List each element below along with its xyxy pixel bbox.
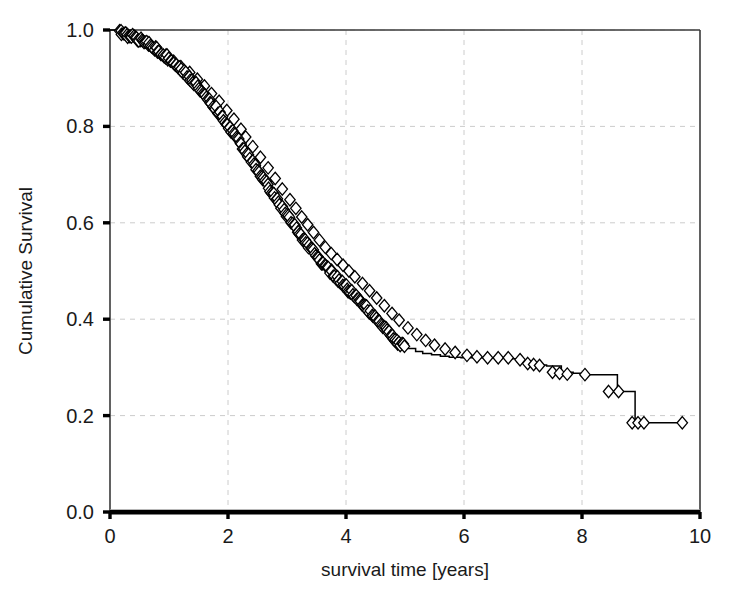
y-tick-label: 0.2 xyxy=(66,405,94,427)
x-tick-label: 0 xyxy=(104,525,115,547)
y-tick-label: 1.0 xyxy=(66,19,94,41)
survival-chart: 0246810 0.00.20.40.60.81.0 survival time… xyxy=(0,0,729,599)
x-tick-label: 2 xyxy=(222,525,233,547)
y-tick-label: 0.4 xyxy=(66,308,94,330)
y-tick-label: 0.0 xyxy=(66,501,94,523)
x-tick-label: 4 xyxy=(340,525,351,547)
y-axis-title: Cumulative Survival xyxy=(15,187,36,355)
x-tick-label: 6 xyxy=(458,525,469,547)
x-tick-label: 8 xyxy=(576,525,587,547)
x-tick-label: 10 xyxy=(689,525,711,547)
figure-container: 0246810 0.00.20.40.60.81.0 survival time… xyxy=(0,0,729,599)
x-axis-title: survival time [years] xyxy=(321,559,489,580)
y-tick-label: 0.8 xyxy=(66,115,94,137)
y-tick-label: 0.6 xyxy=(66,212,94,234)
